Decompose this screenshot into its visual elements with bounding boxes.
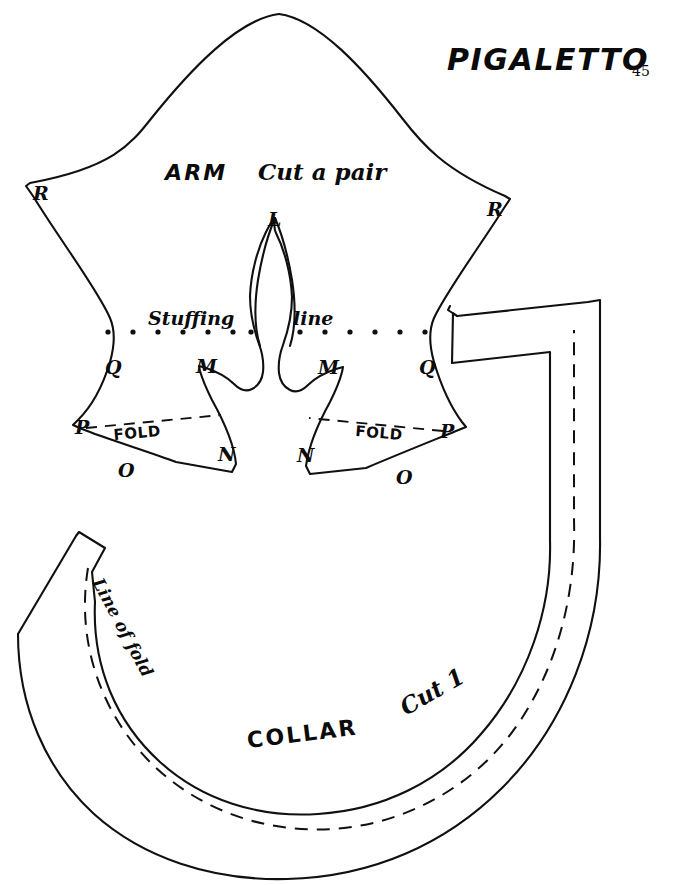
collar-cut-note: Cut 1 (395, 662, 469, 720)
arm-petal-curve-left (256, 218, 275, 346)
arm-piece-group: ARM Cut a pair Stuffing line FOLD FOLD R… (26, 14, 510, 488)
vertex-label-O-left: O (118, 459, 135, 481)
vertex-label-M-right: M (317, 356, 340, 378)
vertex-label-P-left: P (74, 416, 90, 438)
arm-outline-left (26, 14, 279, 472)
vertex-label-Q-left: Q (105, 356, 122, 378)
collar-right-end-notch (452, 313, 457, 363)
fold-label-right: FOLD (355, 422, 404, 444)
pattern-drawing-canvas: ARM Cut a pair Stuffing line FOLD FOLD R… (0, 0, 678, 885)
vertex-label-N-right: N (296, 444, 315, 466)
page-header-group: PIGALETTO 45 (447, 42, 650, 79)
vertex-label-P-right: P (439, 420, 455, 442)
stuffing-line-dots-right (297, 329, 427, 334)
vertex-label-R-left: R (32, 182, 49, 204)
arm-outline-right (274, 14, 510, 474)
collar-part-label: COLLAR (246, 715, 359, 753)
vertex-label-Q-right: Q (419, 356, 436, 378)
stuffing-line-dots-left (105, 329, 253, 334)
vertex-label-M-left: M (195, 355, 218, 377)
stuffing-label-left: Stuffing (148, 307, 234, 329)
vertex-label-N-left: N (217, 443, 236, 465)
pattern-sheet-page: ARM Cut a pair Stuffing line FOLD FOLD R… (0, 0, 678, 885)
fold-label-left: FOLD (113, 422, 162, 444)
page-title: PIGALETTO (447, 42, 649, 77)
vertex-label-O-right: O (396, 466, 413, 488)
collar-line-of-fold-label: Line of fold (88, 574, 157, 681)
vertex-label-R-right: R (486, 198, 503, 220)
arm-part-label: ARM (163, 160, 227, 185)
stuffing-label-right: line (293, 307, 333, 329)
arm-cut-note: Cut a pair (258, 158, 388, 185)
page-number: 45 (632, 63, 650, 79)
collar-piece-group: Line of fold COLLAR Cut 1 (18, 300, 600, 879)
vertex-label-L: L (267, 208, 281, 230)
